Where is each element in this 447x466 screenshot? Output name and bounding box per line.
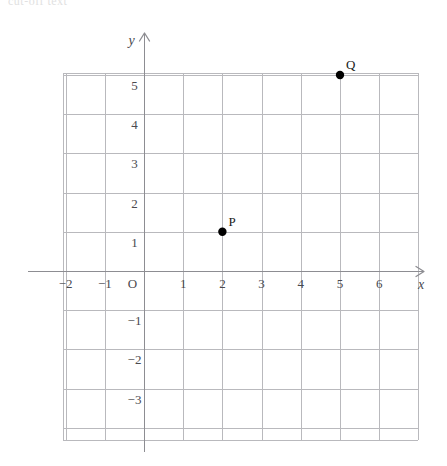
grid-vertical-lines xyxy=(64,73,419,440)
y-tick-label: 2 xyxy=(131,196,138,211)
x-tick-label: 4 xyxy=(298,276,305,291)
tick-labels-group: −2−112345654321−1−2−3O xyxy=(59,78,383,407)
y-tick-label: −2 xyxy=(128,352,142,367)
y-tick-label: 3 xyxy=(131,156,138,171)
data-point-label-q: Q xyxy=(346,57,356,72)
data-point-dot-p[interactable] xyxy=(218,228,226,236)
x-tick-label: −2 xyxy=(59,276,73,291)
x-tick-label: 1 xyxy=(180,276,187,291)
x-tick-label: 3 xyxy=(258,276,265,291)
y-tick-label: −1 xyxy=(128,313,142,328)
y-tick-label: −3 xyxy=(128,392,142,407)
x-tick-label: 6 xyxy=(376,276,383,291)
y-tick-label: 1 xyxy=(131,235,138,250)
y-tick-label: 4 xyxy=(131,117,138,132)
grid-horizontal-lines xyxy=(63,74,418,441)
axis-name-group: xy xyxy=(126,33,425,292)
x-tick-label: 5 xyxy=(337,276,344,291)
coordinate-plane-svg: −2−112345654321−1−2−3O xy PQ xyxy=(0,0,447,466)
data-point-dot-q[interactable] xyxy=(336,71,344,79)
data-points-group: PQ xyxy=(218,57,356,236)
x-axis-name: x xyxy=(417,277,425,292)
origin-label: O xyxy=(128,276,137,291)
y-tick-label: 5 xyxy=(131,78,138,93)
y-axis-name: y xyxy=(126,33,135,48)
x-tick-label: −1 xyxy=(98,276,112,291)
data-point-label-p: P xyxy=(228,214,235,229)
coordinate-plane-figure: cut-off text −2−112345654321−1−2−3O xy P… xyxy=(0,0,447,466)
x-tick-label: 2 xyxy=(219,276,226,291)
